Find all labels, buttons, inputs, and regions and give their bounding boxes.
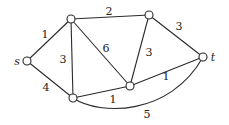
node-t	[199, 53, 207, 61]
node-s	[23, 57, 31, 65]
node-label-t: t	[211, 51, 216, 64]
node-c	[145, 11, 153, 19]
edge-weight-label: 3	[60, 53, 67, 66]
graph-diagram: 1432633115st	[0, 0, 229, 125]
edge-weight-label: 6	[103, 42, 110, 55]
edge-weight-label: 5	[144, 108, 151, 121]
edge-weight-label: 1	[42, 28, 49, 41]
edge-a-d	[71, 19, 130, 86]
node-label-s: s	[14, 55, 20, 68]
edge-weight-label: 3	[146, 46, 153, 59]
node-b	[69, 94, 77, 102]
node-d	[126, 82, 134, 90]
edge-weight-label: 2	[106, 5, 113, 18]
edge-weight-label: 3	[176, 20, 183, 33]
edge-s-b	[27, 61, 73, 98]
edge-weight-label: 1	[110, 93, 117, 106]
edge-b-d	[73, 86, 130, 98]
edge-weight-label: 4	[43, 81, 50, 94]
edge-weight-label: 1	[163, 70, 170, 83]
node-a	[67, 15, 75, 23]
edge-a-b	[71, 19, 73, 98]
